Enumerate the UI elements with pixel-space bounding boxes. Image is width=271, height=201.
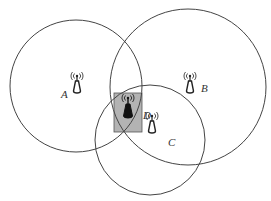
tower-a: A <box>60 72 83 100</box>
tower-b: B <box>184 72 208 94</box>
label-b: B <box>201 82 208 94</box>
antenna-tower-icon <box>71 72 83 93</box>
antenna-tower-icon <box>184 72 196 93</box>
label-d: D <box>142 109 151 121</box>
label-a: A <box>60 88 68 100</box>
label-c: C <box>168 136 176 148</box>
coverage-diagram: A B C D <box>0 0 271 201</box>
